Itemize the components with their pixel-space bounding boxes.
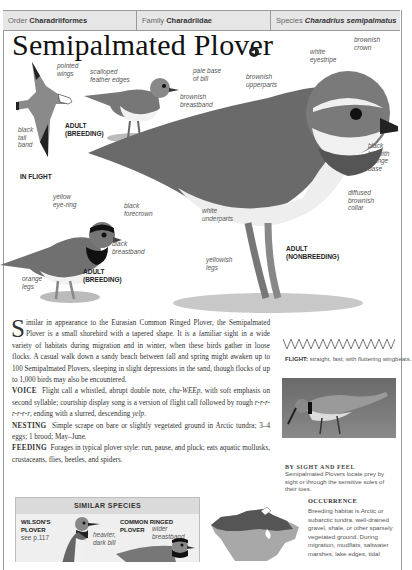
- adult-breeding-bird-illustration: [0, 195, 125, 305]
- species-key: Species: [276, 16, 303, 25]
- common-ringed-plover-illustration: [116, 536, 196, 562]
- flight-text: straight, fast; with fluttering wingbeat…: [310, 356, 412, 362]
- similar-species-wilsons-name: WILSON'S PLOVER: [21, 518, 50, 534]
- label-black-forecrown: blackforecrown: [124, 202, 153, 217]
- adult-nonbreeding-bird-illustration: [88, 48, 398, 313]
- label-orange-legs: orangelegs: [22, 275, 42, 290]
- label-yellowish-legs: yellowishlegs: [206, 256, 232, 271]
- wilsons-plover-illustration: [52, 516, 102, 562]
- label-diffused-brownish-collar: diffusedbrownishcollar: [348, 189, 374, 212]
- dropcap: S: [11, 319, 25, 339]
- caption-adult-nonbreeding: ADULT (NONBREEDING): [286, 245, 339, 261]
- nesting-text: Simple scrape on bare or slightly vegeta…: [12, 422, 270, 441]
- feeding-paragraph: FEEDING Forages in typical plover style:…: [12, 443, 270, 466]
- caption-adult-breeding: ADULT (BREEDING): [83, 268, 122, 284]
- label-yellow-eye-ring: yelloweye-ring: [53, 193, 76, 208]
- occurrence-heading: OCCURRENCE: [308, 497, 357, 504]
- plover-photo: [282, 378, 396, 438]
- label-black-tail-band: blacktailband: [18, 126, 33, 149]
- voice-text: , ending with a slurred, descending: [30, 410, 132, 418]
- intro-paragraph: Similar in appearance to the Eurasian Co…: [12, 318, 270, 386]
- label-brownish-crown: brownishcrown: [354, 36, 380, 51]
- similar-species-heading: SIMILAR SPECIES: [16, 498, 199, 514]
- label-brownish-upperparts: brownishupperparts: [246, 73, 277, 88]
- voice-paragraph: VOICE Flight call a whistled, abrupt dou…: [12, 386, 270, 420]
- similar-note-line1: wider: [152, 525, 168, 532]
- plover-photo-image: [282, 378, 396, 438]
- caption-adult-breeding-line1: ADULT: [83, 268, 105, 275]
- species-value: Charadrius semipalmatus: [305, 16, 397, 25]
- similar-name-line2: PLOVER: [21, 527, 46, 533]
- species-description: Similar in appearance to the Eurasian Co…: [12, 318, 270, 466]
- flight-label: FLIGHT:: [285, 356, 308, 362]
- photo-caption: Semipalmated Plovers locate prey by sigh…: [285, 471, 397, 494]
- voice-heading: VOICE: [12, 387, 37, 395]
- photo-caption-title: BY SIGHT AND FEEL: [285, 464, 355, 470]
- feeding-text: Forages in typical plover style: run, pa…: [12, 444, 270, 463]
- caption-in-flight: IN FLIGHT: [20, 173, 52, 181]
- taxonomy-species: Species Charadrius semipalmatus: [271, 11, 400, 30]
- voice-end: yelp: [132, 410, 144, 418]
- nesting-heading: NESTING: [12, 422, 46, 430]
- family-key: Family: [142, 16, 164, 25]
- voice-text: .: [144, 410, 146, 418]
- order-key: Order: [8, 16, 27, 25]
- label-white-eyestripe: whiteeyestripe: [310, 48, 336, 63]
- label-pointed-wings: pointedwings: [57, 62, 78, 77]
- similar-species-box: SIMILAR SPECIES WILSON'S PLOVER see p.11…: [15, 497, 200, 562]
- occurrence-text: Breeding habitat is Arctic or subarctic …: [308, 507, 398, 559]
- intro-text: imilar in appearance to the Eurasian Com…: [12, 319, 270, 384]
- caption-adult-breeding-line2: (BREEDING): [83, 276, 122, 283]
- feeding-heading: FEEDING: [12, 444, 47, 452]
- family-value: Charadriidae: [166, 16, 212, 25]
- similar-name-line1: WILSON'S: [21, 519, 50, 525]
- flight-caption: FLIGHT: straight, fast; with fluttering …: [285, 356, 411, 362]
- caption-adult-nonbreeding-line2: (NONBREEDING): [286, 253, 339, 260]
- similar-species-wilsons-ref[interactable]: see p.117: [21, 534, 49, 542]
- voice-call: chu-WEEp: [169, 387, 200, 395]
- order-value: Charadriiformes: [29, 16, 87, 25]
- nesting-paragraph: NESTING Simple scrape on bare or slightl…: [12, 421, 270, 444]
- label-black-breastband: blackbreastband: [112, 240, 145, 255]
- flight-pattern-icon: [283, 338, 395, 350]
- voice-text: Flight call a whistled, abrupt double no…: [42, 387, 169, 395]
- label-black-bill-orange-base: blackbill withorangebase: [368, 142, 389, 172]
- range-map: [207, 505, 303, 561]
- similar-name-line2: PLOVER: [120, 527, 145, 533]
- caption-adult-nonbreeding-line1: ADULT: [286, 245, 308, 252]
- label-white-underparts: whiteunderparts: [202, 207, 233, 222]
